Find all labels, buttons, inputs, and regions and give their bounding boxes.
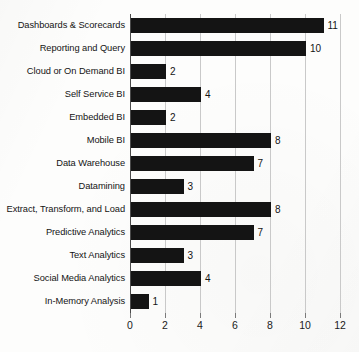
bar bbox=[131, 271, 201, 286]
x-axis-tick-label: 8 bbox=[255, 319, 285, 331]
category-label: Mobile BI bbox=[0, 129, 125, 152]
x-axis-tick-label: 12 bbox=[325, 319, 355, 331]
x-axis-tick-label: 0 bbox=[115, 319, 145, 331]
bar bbox=[131, 156, 254, 171]
bar-value-label: 11 bbox=[328, 18, 338, 33]
x-axis-tick bbox=[305, 313, 306, 318]
bar-value-label: 2 bbox=[170, 64, 176, 79]
bar bbox=[131, 41, 306, 56]
bar-value-label: 8 bbox=[275, 202, 281, 217]
bar bbox=[131, 248, 184, 263]
x-axis-tick bbox=[340, 313, 341, 318]
bar bbox=[131, 64, 166, 79]
bar-row: Social Media Analytics4 bbox=[0, 267, 359, 290]
bar-value-label: 4 bbox=[205, 271, 211, 286]
bar-row: Text Analytics3 bbox=[0, 244, 359, 267]
bar-value-label: 7 bbox=[258, 156, 264, 171]
bar-row: Predictive Analytics7 bbox=[0, 221, 359, 244]
x-axis-tick bbox=[130, 313, 131, 318]
bar-row: Reporting and Query10 bbox=[0, 37, 359, 60]
x-axis-tick bbox=[165, 313, 166, 318]
category-label: Datamining bbox=[0, 175, 125, 198]
x-axis-tick-label: 10 bbox=[290, 319, 320, 331]
category-label: Cloud or On Demand BI bbox=[0, 60, 125, 83]
category-label: Self Service BI bbox=[0, 83, 125, 106]
x-axis-tick bbox=[270, 313, 271, 318]
bar-value-label: 8 bbox=[275, 133, 281, 148]
x-axis-tick-label: 2 bbox=[150, 319, 180, 331]
bar-value-label: 2 bbox=[170, 110, 176, 125]
bar-row: In-Memory Analysis1 bbox=[0, 290, 359, 313]
bar-value-label: 7 bbox=[258, 225, 264, 240]
bar bbox=[131, 18, 324, 33]
category-label: Dashboards & Scorecards bbox=[0, 14, 125, 37]
category-label: Extract, Transform, and Load bbox=[0, 198, 125, 221]
bar-row: Cloud or On Demand BI2 bbox=[0, 60, 359, 83]
category-label: Social Media Analytics bbox=[0, 267, 125, 290]
bar-row: Embedded BI2 bbox=[0, 106, 359, 129]
bar-value-label: 4 bbox=[205, 87, 211, 102]
x-axis-tick-label: 6 bbox=[220, 319, 250, 331]
x-axis-tick bbox=[235, 313, 236, 318]
bar-row: Data Warehouse7 bbox=[0, 152, 359, 175]
bar-value-label: 1 bbox=[153, 294, 159, 309]
category-label: Predictive Analytics bbox=[0, 221, 125, 244]
bar-value-label: 3 bbox=[188, 248, 194, 263]
x-axis-tick bbox=[200, 313, 201, 318]
x-axis-tick-label: 4 bbox=[185, 319, 215, 331]
bar bbox=[131, 87, 201, 102]
bar bbox=[131, 133, 271, 148]
bar-value-label: 10 bbox=[310, 41, 321, 56]
bar-row: Mobile BI8 bbox=[0, 129, 359, 152]
bar-row: Self Service BI4 bbox=[0, 83, 359, 106]
category-label: Embedded BI bbox=[0, 106, 125, 129]
bar bbox=[131, 202, 271, 217]
bar-row: Dashboards & Scorecards11 bbox=[0, 14, 359, 37]
bar bbox=[131, 179, 184, 194]
bar-chart: 024681012Dashboards & Scorecards11Report… bbox=[0, 0, 359, 352]
category-label: Data Warehouse bbox=[0, 152, 125, 175]
bar-value-label: 3 bbox=[188, 179, 194, 194]
bar bbox=[131, 294, 149, 309]
category-label: Text Analytics bbox=[0, 244, 125, 267]
category-label: In-Memory Analysis bbox=[0, 290, 125, 313]
bar bbox=[131, 225, 254, 240]
bar-row: Extract, Transform, and Load8 bbox=[0, 198, 359, 221]
bar bbox=[131, 110, 166, 125]
bar-row: Datamining3 bbox=[0, 175, 359, 198]
category-label: Reporting and Query bbox=[0, 37, 125, 60]
